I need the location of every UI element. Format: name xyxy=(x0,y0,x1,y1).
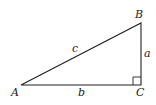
right-triangle-diagram: A B C a b c xyxy=(0,0,156,105)
triangle xyxy=(21,23,141,85)
vertex-label-b: B xyxy=(134,8,143,21)
side-label-c: c xyxy=(72,42,78,55)
right-angle-marker xyxy=(133,77,141,85)
side-label-a: a xyxy=(144,47,151,60)
vertex-label-a: A xyxy=(10,86,19,99)
side-label-b: b xyxy=(78,86,85,99)
vertex-label-c: C xyxy=(136,86,145,99)
